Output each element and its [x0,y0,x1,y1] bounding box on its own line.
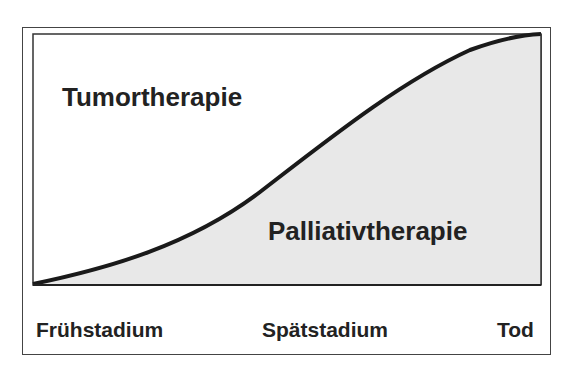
axis-label-fruehstadium: Frühstadium [36,318,163,342]
axis-label-spaetstadium: Spätstadium [262,318,388,342]
axis-label-tod: Tod [497,318,534,342]
label-tumortherapie: Tumortherapie [62,82,242,113]
label-palliativtherapie: Palliativtherapie [268,216,467,247]
